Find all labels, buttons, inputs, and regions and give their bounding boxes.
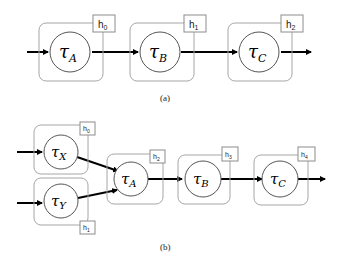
node-a: τA h2 <box>107 150 165 204</box>
node-x: τX h0 <box>34 122 95 174</box>
panel-a: τA h0 τB h1 τC h2 (a) <box>27 15 311 103</box>
edge-x-to-a <box>77 157 118 171</box>
edge-y-to-a <box>78 190 117 198</box>
node-c: τC h4 <box>254 147 315 205</box>
caption-b: (b) <box>160 242 171 252</box>
node-b: τB h1 <box>130 15 206 81</box>
node-a: τA h0 <box>39 15 115 81</box>
node-y: τY h1 <box>34 178 95 234</box>
caption-a: (a) <box>160 93 170 103</box>
node-c: τC h2 <box>228 15 303 81</box>
node-b: τB h3 <box>178 147 238 204</box>
diagram-canvas: τA h0 τB h1 τC h2 (a) <box>0 0 339 263</box>
figure: τA h0 τB h1 τC h2 (a) <box>0 0 339 263</box>
panel-b: τX h0 τY h1 τA h2 τB h3 <box>17 122 325 252</box>
